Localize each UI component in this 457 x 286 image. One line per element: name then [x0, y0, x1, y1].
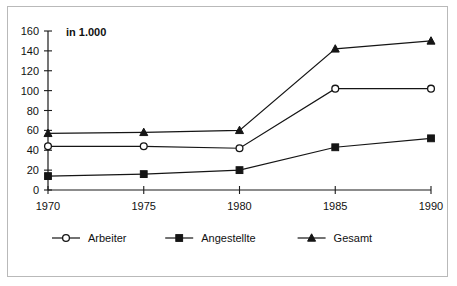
x-tick-label: 1985	[323, 200, 347, 212]
data-point-arbeiter-open-circle-marker	[140, 143, 147, 150]
legend-label: Angestellte	[201, 232, 255, 244]
y-tick-label: 120	[21, 65, 39, 77]
series-gesamt	[44, 37, 435, 137]
y-tick-label: 40	[27, 144, 39, 156]
data-point-arbeiter-open-circle-marker	[236, 145, 243, 152]
line-chart: 0204060801001201401601970197519801985199…	[8, 7, 447, 276]
y-tick-label: 140	[21, 45, 39, 57]
legend-item-angestellte[interactable]: Angestellte	[165, 232, 255, 244]
series-arbeiter	[45, 85, 435, 151]
x-tick-label: 1970	[36, 200, 60, 212]
series-line-gesamt	[48, 41, 431, 133]
legend-label: Gesamt	[334, 232, 373, 244]
data-point-arbeiter-open-circle-marker	[45, 143, 52, 150]
data-point-angestellte-filled-square-marker	[428, 135, 435, 142]
data-point-arbeiter-open-circle-marker	[332, 85, 339, 92]
y-tick-label: 80	[27, 105, 39, 117]
unit-note-label: in 1.000	[66, 26, 106, 38]
chart-frame: 0204060801001201401601970197519801985199…	[7, 6, 448, 277]
data-point-angestellte-filled-square-marker	[236, 167, 243, 174]
x-tick-label: 1990	[419, 200, 443, 212]
data-point-gesamt-filled-triangle-marker	[427, 37, 435, 44]
y-tick-label: 20	[27, 164, 39, 176]
data-point-angestellte-filled-square-marker	[140, 171, 147, 178]
legend-filled-square-marker	[176, 235, 183, 242]
x-tick-label: 1980	[227, 200, 251, 212]
x-tick-label: 1975	[132, 200, 156, 212]
data-point-arbeiter-open-circle-marker	[428, 85, 435, 92]
series-line-arbeiter	[48, 89, 431, 149]
data-point-angestellte-filled-square-marker	[45, 173, 52, 180]
y-tick-label: 0	[33, 184, 39, 196]
legend-item-arbeiter[interactable]: Arbeiter	[52, 232, 127, 244]
y-tick-label: 60	[27, 124, 39, 136]
legend-item-gesamt[interactable]: Gesamt	[298, 232, 373, 244]
y-tick-label: 160	[21, 25, 39, 37]
legend-open-circle-marker	[63, 235, 70, 242]
y-tick-label: 100	[21, 85, 39, 97]
data-point-angestellte-filled-square-marker	[332, 144, 339, 151]
legend-label: Arbeiter	[88, 232, 127, 244]
series-angestellte	[45, 135, 435, 180]
